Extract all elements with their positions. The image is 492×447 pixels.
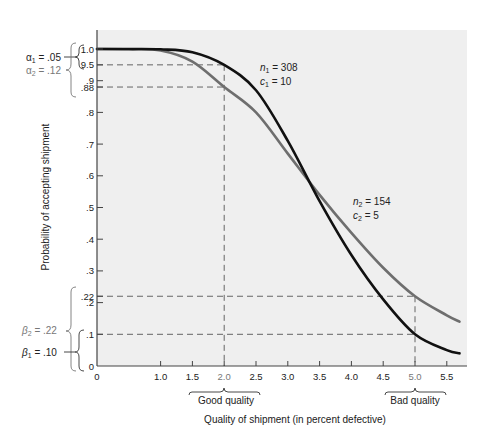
- x-tick-label: 1.0: [154, 371, 167, 382]
- y-tick-label: .5: [86, 202, 94, 213]
- y-tick-label: .4: [86, 234, 94, 245]
- beta1-label: β1 = .10: [21, 347, 57, 359]
- alpha2-label: α2 = .12: [26, 65, 61, 77]
- x-axis-title: Quality of shipment (in percent defectiv…: [204, 414, 386, 425]
- oc-curve-chart: 01.01.52.02.53.03.54.04.55.05.5 1.09.5.9…: [0, 0, 492, 447]
- x-tick-label: 3.0: [281, 371, 294, 382]
- y-tick-label: .6: [86, 170, 94, 181]
- x-tick-label: 2.5: [249, 371, 262, 382]
- x-tick-label: 2.0: [218, 371, 231, 382]
- alpha1-label: α1 = .05: [26, 52, 61, 64]
- x-tick-label: 5.0: [408, 371, 421, 382]
- curve2-c-label: c2 = 5: [353, 210, 379, 222]
- x-tick-label: 4.0: [345, 371, 358, 382]
- x-tick-label: 3.5: [313, 371, 326, 382]
- y-tick-label: .88: [81, 82, 94, 93]
- y-tick-label: .3: [86, 265, 94, 276]
- beta1-brace: [75, 330, 84, 371]
- x-tick-label: 1.5: [186, 371, 199, 382]
- y-tick-label: .8: [86, 107, 94, 118]
- y-tick-label: .2: [86, 297, 94, 308]
- curve1-c-label: c1 = 10: [260, 76, 292, 88]
- bad-quality-label: Bad quality: [390, 395, 439, 406]
- y-tick-label: 0: [89, 361, 94, 372]
- y-tick-label: .1: [86, 329, 94, 340]
- y-axis-title: Probability of accepting shipment: [40, 123, 51, 270]
- beta2-brace: [66, 287, 76, 371]
- x-tick-label: 0: [94, 371, 99, 382]
- y-tick-label: .7: [86, 139, 94, 150]
- bad-quality-brace: [385, 388, 446, 395]
- x-tick-label: 4.5: [377, 371, 390, 382]
- good-quality-label: Good quality: [198, 395, 254, 406]
- beta2-label: β2 = .22: [21, 325, 57, 337]
- alpha2-brace: [66, 43, 76, 97]
- good-quality-brace: [189, 388, 260, 395]
- x-tick-label: 5.5: [440, 371, 453, 382]
